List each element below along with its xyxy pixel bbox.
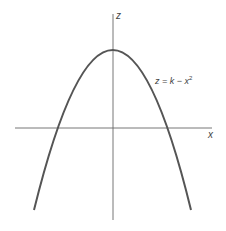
parabola-diagram: z x z = k − x2 [0, 0, 226, 231]
equation-label: z = k − x2 [154, 75, 193, 86]
z-axis-label: z [115, 10, 121, 21]
x-axis-label: x [207, 129, 214, 140]
parabola-curve [34, 50, 191, 210]
